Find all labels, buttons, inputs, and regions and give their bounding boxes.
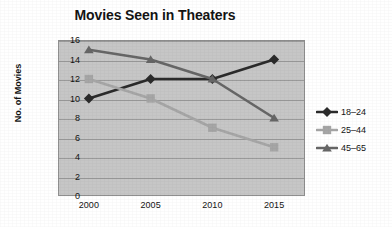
chart-title: Movies Seen in Theaters (0, 7, 310, 23)
series-line (89, 50, 274, 118)
legend-swatch-icon (316, 142, 338, 154)
legend-swatch-icon (316, 124, 338, 136)
x-tick-label: 2005 (121, 200, 181, 210)
series-45–65 (84, 46, 279, 122)
legend-swatch-icon (316, 106, 338, 118)
data-point-marker (269, 55, 279, 65)
data-point-marker (85, 75, 93, 83)
legend-label: 25–44 (341, 125, 366, 135)
data-point-marker (146, 94, 154, 102)
data-point-marker (146, 74, 156, 84)
series-25–44 (85, 75, 279, 152)
series-layer (58, 40, 305, 196)
data-point-marker (322, 107, 332, 117)
data-point-marker (323, 125, 331, 133)
legend-label: 18–24 (341, 107, 366, 117)
x-tick-label: 2015 (244, 200, 304, 210)
data-point-marker (270, 143, 278, 151)
y-axis-title: No. of Movies (13, 53, 23, 133)
legend-item-45–65[interactable]: 45–65 (316, 140, 388, 155)
chart-figure: Movies Seen in Theaters No. of Movies 02… (0, 0, 392, 227)
series-18–24 (84, 55, 279, 104)
data-point-marker (208, 124, 216, 132)
legend-item-18–24[interactable]: 18–24 (316, 104, 388, 119)
series-line (89, 60, 274, 99)
chart-legend: 18–2425–4445–65 (316, 104, 388, 158)
legend-label: 45–65 (341, 143, 366, 153)
x-tick-label: 2000 (59, 200, 119, 210)
x-tick-label: 2010 (182, 200, 242, 210)
data-point-marker (84, 94, 94, 104)
legend-item-25–44[interactable]: 25–44 (316, 122, 388, 137)
